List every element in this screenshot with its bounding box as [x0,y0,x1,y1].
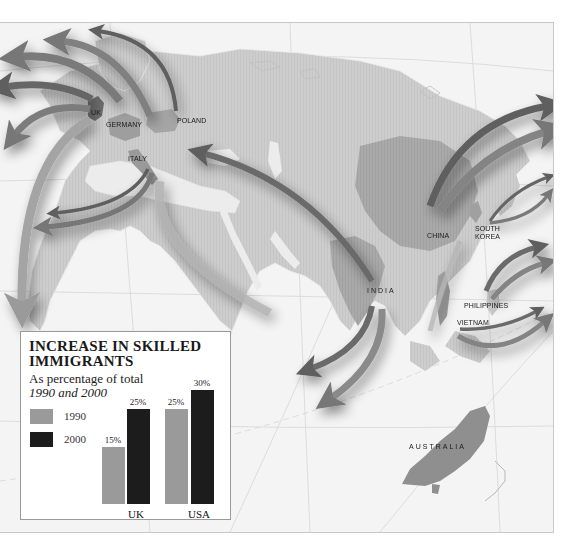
bar-value-usa-1990: 25% [161,397,191,407]
legend-swatch-1990 [30,409,53,424]
bar-uk-1990 [102,447,125,504]
bar-value-uk-2000: 25% [123,397,153,407]
chart-title: INCREASE IN SKILLED IMMIGRANTS [29,339,229,369]
bar-usa-1990 [165,409,188,504]
label-italy: ITALY [128,155,147,163]
label-vietnam: VIETNAM [457,319,489,327]
category-label-usa: USA [179,508,219,520]
chart-title-line2: IMMIGRANTS [29,354,229,369]
label-china: CHINA [427,232,449,240]
label-uk: UK [91,109,101,117]
legend-label-1990: 1990 [64,410,86,422]
label-south-korea-line1: SOUTH [475,225,500,233]
legend-swatch-2000 [30,432,53,447]
label-south-korea-line2: KOREA [475,233,500,241]
label-philippines: PHILIPPINES [464,302,508,310]
label-poland: POLAND [177,117,206,125]
skilled-immigrants-chart: INCREASE IN SKILLED IMMIGRANTS As percen… [20,331,231,520]
label-australia: AUSTRALIA [409,443,466,451]
bar-uk-2000 [127,409,150,504]
bar-value-uk-1990: 15% [98,435,128,445]
label-germany: GERMANY [106,121,142,129]
bar-usa-2000 [191,390,214,504]
legend-label-2000: 2000 [64,433,86,445]
bar-value-usa-2000: 30% [187,378,217,388]
chart-title-line1: INCREASE IN SKILLED [29,339,229,354]
label-india: INDIA [367,287,396,295]
category-label-uk: UK [116,508,156,520]
chart-years: 1990 and 2000 [29,385,107,401]
